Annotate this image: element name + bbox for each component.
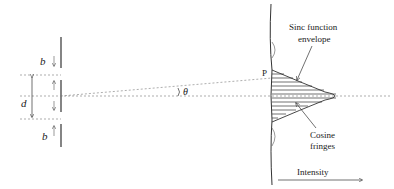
- label-theta: θ: [183, 86, 188, 97]
- label-sinc-line1: Sinc function: [289, 22, 338, 32]
- label-cosine-line1: Cosine: [310, 130, 335, 140]
- theta-arc: [178, 88, 180, 96]
- label-b-top: b: [40, 55, 46, 67]
- label-intensity: Intensity: [297, 167, 329, 177]
- label-d: d: [21, 97, 27, 109]
- label-cosine-line2: fringes: [310, 141, 335, 151]
- label-point-p: P: [262, 68, 267, 78]
- screen: [270, 4, 272, 185]
- sinc-callout-arrow: [297, 46, 312, 80]
- double-slit-diagram: b d b θ P Sinc function envelope Cosine …: [0, 0, 394, 189]
- label-sinc-line2: envelope: [298, 34, 330, 44]
- label-b-bottom: b: [42, 130, 48, 142]
- cosine-callout-arrow: [296, 103, 316, 128]
